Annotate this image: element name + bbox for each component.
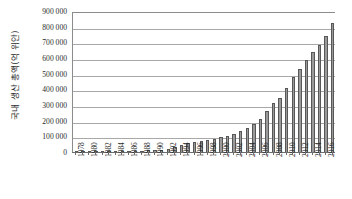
x-axis-tick-mark xyxy=(286,152,287,155)
bar xyxy=(331,23,334,153)
bar-series xyxy=(73,13,335,153)
x-axis-tick-mark xyxy=(312,152,313,155)
x-axis-tick-mark xyxy=(279,152,280,155)
x-axis-tick-mark xyxy=(227,152,228,155)
plot-area xyxy=(72,12,335,153)
x-axis-tick-mark xyxy=(273,152,274,155)
x-axis-tick-mark xyxy=(134,152,135,155)
bar xyxy=(311,52,314,153)
bar xyxy=(324,36,327,153)
x-axis-tick-mark xyxy=(305,152,306,155)
x-axis-tick-mark xyxy=(174,152,175,155)
y-axis-tick-label: 300 000 xyxy=(27,102,67,110)
y-axis-tick-labels: 900 000800 000700 000600 000500 000400 0… xyxy=(30,12,70,153)
x-axis-tick-mark xyxy=(220,152,221,155)
x-axis-tick-mark xyxy=(161,152,162,155)
x-axis-tick-mark xyxy=(213,152,214,155)
x-axis-tick-mark xyxy=(299,152,300,155)
x-axis-tick-mark xyxy=(187,152,188,155)
bar xyxy=(298,69,301,153)
x-axis-tick-mark xyxy=(141,152,142,155)
y-axis-tick-label: 900 000 xyxy=(27,8,67,16)
x-axis-tick-mark xyxy=(200,152,201,155)
x-axis-tick-mark xyxy=(325,152,326,155)
x-axis-tick-mark xyxy=(121,152,122,155)
y-axis-tick-label: 700 000 xyxy=(27,40,67,48)
y-axis-tick-label: 200 000 xyxy=(27,118,67,126)
bar xyxy=(305,60,308,153)
bar xyxy=(318,45,321,153)
y-axis-tick-label: 500 000 xyxy=(27,71,67,79)
y-axis-tick-label: 100 000 xyxy=(27,134,67,142)
y-axis-tick-label: 600 000 xyxy=(27,55,67,63)
y-axis-tick-label: 0 xyxy=(27,149,67,157)
chart-figure: 국내 생산 총액(억 위안) 900 000800 000700 000600 … xyxy=(0,0,352,199)
y-axis-tick-label: 800 000 xyxy=(27,24,67,32)
x-axis-tick-mark xyxy=(253,152,254,155)
x-axis-tick-mark xyxy=(240,152,241,155)
x-axis-tick-mark xyxy=(148,152,149,155)
y-axis-tick-label: 400 000 xyxy=(27,87,67,95)
x-axis-tick-mark xyxy=(207,152,208,155)
x-axis-tick-mark xyxy=(332,152,333,155)
x-axis-tick-mark xyxy=(95,152,96,155)
x-axis-tick-mark xyxy=(194,152,195,155)
x-axis-tick-mark xyxy=(292,152,293,155)
x-axis-tick-mark xyxy=(233,152,234,155)
x-axis-tick-mark xyxy=(82,152,83,155)
x-axis-tick-mark xyxy=(108,152,109,155)
x-axis-tick-mark xyxy=(128,152,129,155)
x-axis-tick-mark xyxy=(319,152,320,155)
x-axis-tick-mark xyxy=(266,152,267,155)
x-axis-tick-mark xyxy=(115,152,116,155)
x-axis-tick-mark xyxy=(102,152,103,155)
y-axis-title: 국내 생산 총액(억 위안) xyxy=(8,0,22,150)
